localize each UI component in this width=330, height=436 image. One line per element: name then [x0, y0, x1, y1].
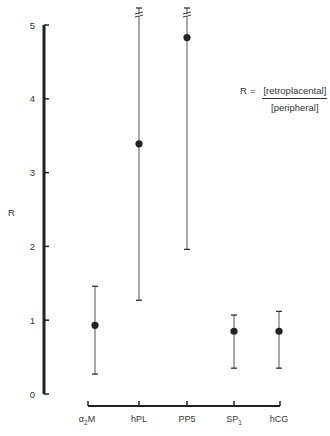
x-tick-label: SP1: [226, 414, 242, 426]
x-tick-label: hPL: [131, 414, 147, 424]
axis-break-gap: [186, 15, 188, 16]
error-bar-plot: 012345Rα2MhPLPP5SP1hCG: [0, 0, 330, 436]
axis-break-gap: [138, 15, 140, 16]
y-tick-label: 4: [30, 93, 35, 104]
y-tick-label: 5: [30, 20, 35, 31]
data-point: [91, 322, 98, 329]
y-tick-label: 3: [30, 167, 35, 178]
y-axis-label: R: [8, 207, 15, 218]
formula-lhs: R: [240, 85, 247, 96]
chart-container: 012345Rα2MhPLPP5SP1hCG: [0, 0, 330, 436]
data-point: [183, 34, 190, 41]
y-tick-label: 2: [30, 241, 35, 252]
x-tick-label: hCG: [270, 414, 289, 424]
formula-equals: =: [250, 85, 256, 96]
formula-numerator: [retroplacental]: [262, 85, 327, 99]
ratio-formula: R = [retroplacental] [peripheral]: [240, 85, 327, 113]
x-tick-label: PP5: [178, 414, 195, 424]
data-point: [135, 140, 142, 147]
x-tick-label: α2M: [79, 414, 95, 426]
y-tick-label: 0: [30, 389, 35, 400]
y-tick-label: 1: [30, 315, 35, 326]
data-point: [275, 328, 282, 335]
data-point: [230, 328, 237, 335]
formula-denominator: [peripheral]: [271, 102, 327, 113]
